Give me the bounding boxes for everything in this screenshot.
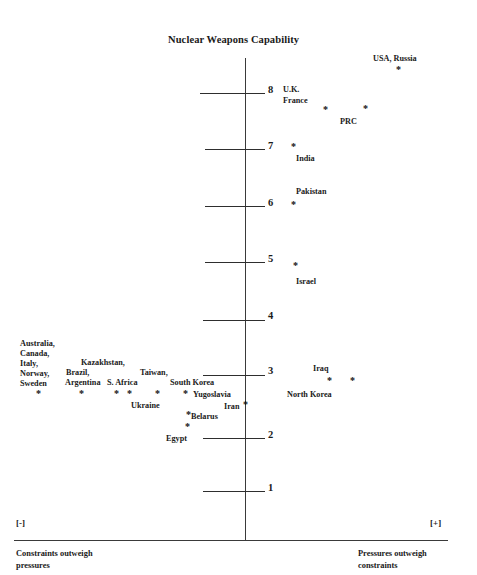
tick-mark-4	[203, 320, 265, 321]
point-label-brazil: Brazil,	[66, 368, 89, 378]
left-caption-line-2: pressures	[16, 560, 50, 572]
data-point-iraq: *	[327, 376, 332, 386]
left-caption-line-1: Constraints outweigh	[16, 548, 93, 560]
data-point-western-cluster: *	[36, 389, 41, 399]
tick-label-3: 3	[268, 366, 273, 377]
data-point-usa-russia: *	[396, 65, 401, 75]
tick-label-7: 7	[268, 141, 273, 152]
tick-mark-7	[205, 149, 265, 150]
tick-mark-1	[203, 491, 265, 492]
data-point-india: *	[291, 142, 296, 152]
data-point-s-africa-a: *	[114, 389, 119, 399]
point-label-north-korea: North Korea	[287, 390, 332, 400]
data-point-iran: *	[243, 400, 248, 410]
data-point-s-africa-b: *	[127, 389, 132, 399]
point-label-iraq: Iraq	[313, 364, 328, 374]
point-label-france: France	[283, 96, 308, 106]
point-label-belarus: Belarus	[191, 412, 218, 422]
tick-mark-8	[200, 93, 265, 94]
data-point-pakistan: *	[291, 200, 296, 210]
point-label-prc: PRC	[340, 117, 357, 127]
axis-minus-sign: [-]	[16, 518, 25, 528]
data-point-uk-france-a: *	[323, 105, 328, 115]
point-label-argentina: Argentina	[65, 378, 100, 388]
point-label-south-korea: South Korea	[170, 378, 214, 388]
point-label-pakistan: Pakistan	[296, 187, 326, 197]
data-point-taiwan: *	[155, 389, 160, 399]
point-label-yugoslavia: Yugoslavia	[193, 390, 231, 400]
tick-label-2: 2	[268, 430, 273, 441]
point-label-egypt: Egypt	[166, 434, 187, 444]
tick-mark-3	[203, 375, 265, 376]
right-caption-line-2: constraints	[358, 560, 398, 572]
data-point-south-korea: *	[183, 389, 188, 399]
data-point-latin-cluster: *	[79, 389, 84, 399]
horizontal-baseline	[14, 540, 448, 541]
point-label-taiwan: Taiwan,	[140, 368, 168, 378]
data-point-egypt: *	[185, 422, 190, 432]
data-point-north-korea: *	[350, 376, 355, 386]
data-point-israel: *	[293, 261, 298, 271]
axis-plus-sign: [+]	[430, 518, 441, 528]
tick-mark-6	[205, 206, 265, 207]
point-label-iran: Iran	[224, 402, 239, 412]
point-label-uk: U.K.	[283, 85, 299, 95]
tick-label-5: 5	[268, 254, 273, 265]
point-label-israel: Israel	[296, 277, 316, 287]
nuclear-capability-chart: Nuclear Weapons Capability 8 7 6 5 4 3 2…	[0, 0, 477, 575]
tick-label-1: 1	[268, 483, 273, 494]
point-label-kazakhstan: Kazakhstan,	[81, 358, 125, 368]
point-label-usa-russia: USA, Russia	[373, 54, 417, 64]
vertical-axis	[245, 58, 246, 540]
point-label-s-africa: S. Africa	[107, 378, 137, 388]
right-caption-line-1: Pressures outweigh	[358, 548, 427, 560]
data-point-prc: *	[363, 104, 368, 114]
point-label-sweden: Sweden	[20, 378, 47, 390]
tick-mark-5	[205, 262, 265, 263]
point-label-india: India	[296, 154, 315, 164]
point-label-ukraine: Ukraine	[131, 401, 160, 411]
tick-label-6: 6	[268, 198, 273, 209]
tick-label-4: 4	[268, 311, 273, 322]
tick-mark-2	[203, 438, 265, 439]
chart-title: Nuclear Weapons Capability	[168, 34, 299, 45]
tick-label-8: 8	[268, 85, 273, 96]
